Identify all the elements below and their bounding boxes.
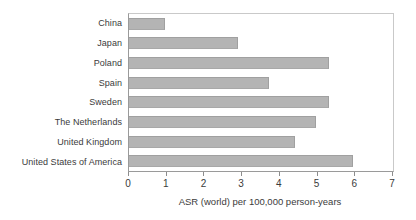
y-axis-label-japan: Japan (0, 33, 125, 53)
x-axis-tick-label: 5 (307, 178, 327, 190)
bar-sweden (129, 96, 329, 108)
bar-row (129, 53, 393, 73)
y-axis-category-labels: China Japan Poland Spain Sweden The Neth… (0, 13, 125, 172)
x-axis-tick-mark (128, 172, 129, 176)
bar-china (129, 18, 165, 30)
x-axis-tick-mark (166, 172, 167, 176)
y-axis-label-poland: Poland (0, 53, 125, 73)
bar-row (129, 14, 393, 34)
x-axis-tick-label: 3 (231, 178, 251, 190)
bars-layer (129, 14, 393, 171)
x-axis-tick-label: 6 (344, 178, 364, 190)
y-axis-label-sweden: Sweden (0, 93, 125, 113)
bar-row (129, 132, 393, 152)
x-axis-tick-mark (203, 172, 204, 176)
bar-united-states (129, 155, 353, 167)
plot-area (128, 13, 394, 172)
y-axis-label-china: China (0, 13, 125, 33)
y-axis-label-united-kingdom: United Kingdom (0, 132, 125, 152)
x-axis-tick-mark (392, 172, 393, 176)
bar-chart: China Japan Poland Spain Sweden The Neth… (0, 0, 416, 220)
y-axis-label-spain: Spain (0, 73, 125, 93)
x-axis-tick-label: 4 (269, 178, 289, 190)
bar-poland (129, 57, 329, 69)
y-axis-label-netherlands: The Netherlands (0, 112, 125, 132)
x-axis-tick-mark (354, 172, 355, 176)
bar-row (129, 73, 393, 93)
x-axis-tick-mark (317, 172, 318, 176)
x-axis-tick-mark (279, 172, 280, 176)
x-axis-tick-label: 7 (382, 178, 402, 190)
bar-row (129, 34, 393, 54)
x-axis-tick-label: 1 (156, 178, 176, 190)
bar-spain (129, 77, 269, 89)
bar-japan (129, 37, 238, 49)
x-axis-tick-label: 2 (193, 178, 213, 190)
bar-netherlands (129, 116, 316, 128)
bar-row (129, 112, 393, 132)
x-axis: 01234567 (128, 172, 392, 198)
bar-united-kingdom (129, 136, 295, 148)
bar-row (129, 151, 393, 171)
x-axis-tick-label: 0 (118, 178, 138, 190)
x-axis-title: ASR (world) per 100,000 person-years (128, 196, 392, 208)
bar-row (129, 93, 393, 113)
x-axis-tick-mark (241, 172, 242, 176)
y-axis-label-united-states: United States of America (0, 152, 125, 172)
